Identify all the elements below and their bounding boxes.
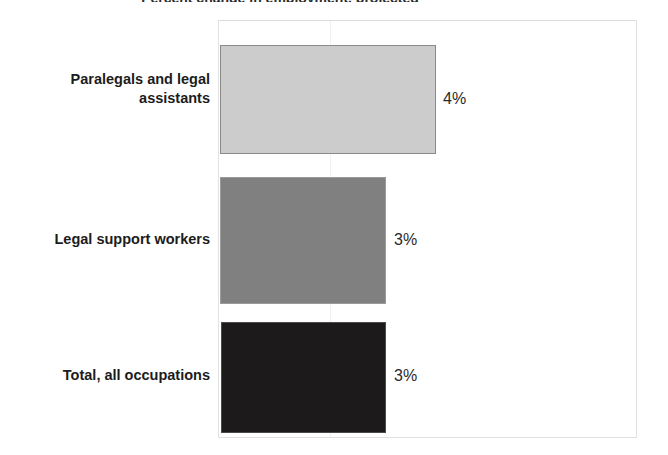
bar-total-all-occupations <box>221 322 386 433</box>
bar-value-label: 4% <box>443 90 466 108</box>
x-axis-baseline <box>218 437 637 438</box>
bar-value-label: 3% <box>394 367 417 385</box>
category-label: Paralegals and legal assistants <box>8 70 210 108</box>
category-label: Total, all occupations <box>8 366 210 385</box>
bar-paralegals-and-legal-assistants <box>220 45 436 154</box>
bar-value-label: 3% <box>394 231 417 249</box>
chart-title: Percent change in employment, projected <box>0 0 560 2</box>
bar-chart-screenshot: Percent change in employment, projected … <box>0 0 668 455</box>
bar-legal-support-workers <box>220 177 386 304</box>
category-label: Legal support workers <box>8 230 210 249</box>
